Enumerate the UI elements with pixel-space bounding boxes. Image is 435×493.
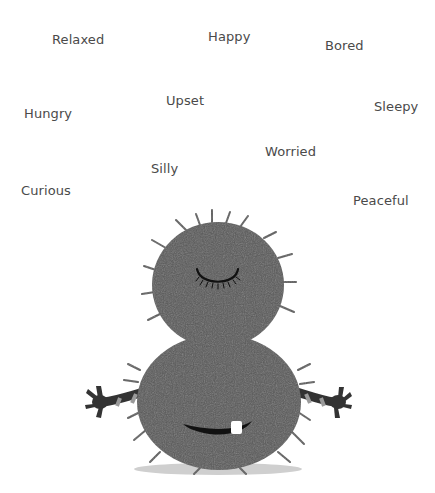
word-hungry[interactable]: Hungry <box>24 106 72 122</box>
tooth <box>231 421 242 434</box>
right-hand <box>330 387 352 418</box>
fuzzy-monster-illustration <box>0 0 435 493</box>
word-upset[interactable]: Upset <box>166 93 204 109</box>
left-hand <box>85 386 108 418</box>
word-relaxed[interactable]: Relaxed <box>52 32 104 48</box>
word-silly[interactable]: Silly <box>151 161 178 177</box>
word-bored[interactable]: Bored <box>325 38 364 54</box>
word-worried[interactable]: Worried <box>265 144 316 160</box>
word-happy[interactable]: Happy <box>208 29 250 45</box>
word-peaceful[interactable]: Peaceful <box>353 193 409 209</box>
word-curious[interactable]: Curious <box>21 183 71 199</box>
word-sleepy[interactable]: Sleepy <box>374 99 418 115</box>
monster-body <box>124 334 314 474</box>
monster-head <box>142 210 296 348</box>
